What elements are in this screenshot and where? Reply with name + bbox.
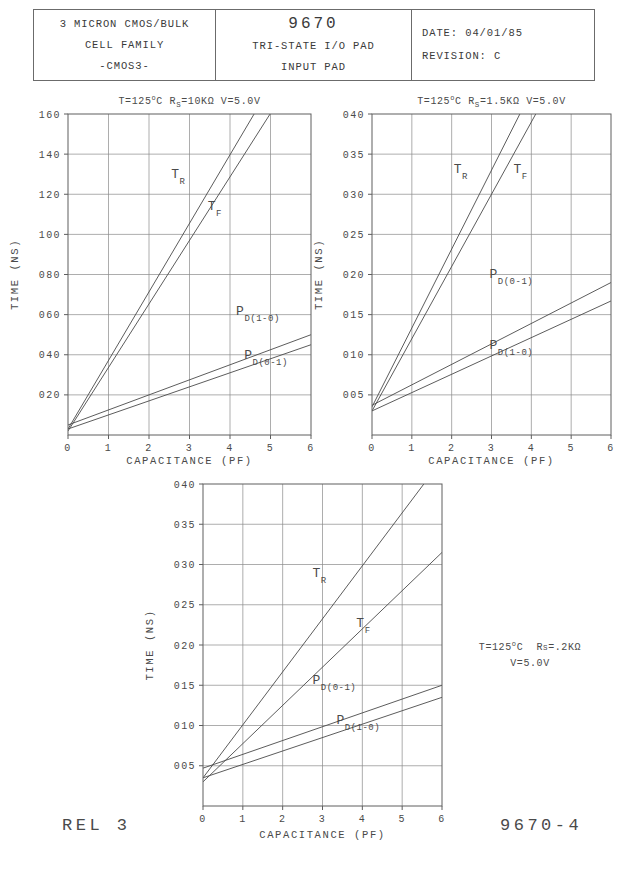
y-tick-label: 120 (39, 190, 61, 201)
x-tick-label: 4 (528, 443, 535, 454)
family-name-line: CELL FAMILY (85, 35, 164, 56)
chart-conditions: T=125oC RS=10KΩ V=5.0V (119, 94, 261, 109)
y-tick-label: 015 (174, 681, 196, 692)
x-tick-label: 3 (319, 814, 326, 825)
y-tick-label: 025 (343, 230, 365, 241)
chart-rs-10k: T=125oC RS=10KΩ V=5.0V020040060080100120… (0, 96, 330, 466)
curve-label-t-f: TF (208, 199, 222, 219)
y-tick-label: 035 (343, 150, 365, 161)
y-tick-label: 030 (174, 560, 196, 571)
part-description-line1: TRI-STATE I/O PAD (252, 36, 374, 57)
y-tick-label: 100 (39, 230, 61, 241)
x-tick-label: 1 (105, 443, 112, 454)
revision-row: REVISION: C (422, 45, 501, 68)
part-description-line2: INPUT PAD (281, 57, 346, 78)
date-label: DATE: (422, 27, 458, 39)
x-tick-label: 0 (64, 443, 71, 454)
x-tick-label: 0 (368, 443, 375, 454)
family-process-line: 3 MICRON CMOS/BULK (60, 14, 190, 35)
y-tick-label: 040 (343, 110, 365, 121)
x-tick-label: 3 (488, 443, 495, 454)
x-tick-label: 1 (239, 814, 246, 825)
curve-label-t-r: TR (454, 162, 468, 182)
y-tick-label: 140 (39, 150, 61, 161)
y-tick-label: 020 (174, 641, 196, 652)
y-tick-label: 040 (174, 480, 196, 491)
footer-page-id: 9670-4 (500, 816, 582, 835)
x-tick-label: 6 (438, 814, 445, 825)
curve-label-p-d0-1: PD(0-1) (244, 348, 288, 368)
y-tick-label: 005 (174, 761, 196, 772)
side-note-line2: V=5.0V (510, 658, 550, 669)
curve-label-p-d1-0: PD(1-0) (490, 338, 534, 358)
y-tick-label: 160 (39, 110, 61, 121)
curve-label-p-d1-0: PD(1-0) (336, 713, 380, 733)
date-row: DATE: 04/01/85 (422, 22, 523, 45)
x-tick-label: 1 (408, 443, 415, 454)
curve-label-t-r: TR (313, 566, 327, 586)
y-tick-label: 080 (39, 270, 61, 281)
y-tick-label: 015 (343, 310, 365, 321)
x-tick-label: 5 (398, 814, 405, 825)
title-block-family-cell: 3 MICRON CMOS/BULK CELL FAMILY -CMOS3- (34, 10, 216, 80)
curve-label-p-d1-0: PD(1-0) (236, 304, 280, 324)
curve-label-t-r: TR (171, 167, 185, 187)
y-axis-title: TIME (NS) (9, 239, 21, 310)
side-note-line1: T=125oC RS=.2KΩ (479, 642, 581, 653)
y-tick-label: 005 (343, 390, 365, 401)
y-tick-label: 010 (343, 350, 365, 361)
x-tick-label: 2 (448, 443, 455, 454)
curve-label-t-f: TF (513, 162, 527, 182)
y-tick-label: 025 (174, 600, 196, 611)
y-tick-label: 060 (39, 310, 61, 321)
y-tick-label: 040 (39, 350, 61, 361)
x-tick-label: 5 (567, 443, 574, 454)
x-tick-label: 2 (145, 443, 152, 454)
title-block-part-cell: 9670 TRI-STATE I/O PAD INPUT PAD (216, 10, 412, 80)
footer-release: REL 3 (62, 816, 131, 835)
chart-rs-0p2k: 0050100150200250300350400123456CAPACITAN… (135, 466, 455, 846)
y-tick-label: 020 (343, 270, 365, 281)
x-axis-title: CAPACITANCE (PF) (259, 829, 385, 841)
chart-rs-0p2k-conditions: T=125oC RS=.2KΩ V=5.0V (455, 637, 605, 671)
x-tick-label: 4 (226, 443, 233, 454)
chart-rs-1p5k: T=125oC RS=1.5KΩ V=5.0V00501001502002503… (304, 96, 624, 466)
y-tick-label: 010 (174, 721, 196, 732)
x-tick-label: 6 (607, 443, 614, 454)
chart-conditions: T=125oC RS=1.5KΩ V=5.0V (417, 94, 566, 109)
curve-label-p-d0-1: PD(0-1) (490, 267, 534, 287)
y-axis-title: TIME (NS) (144, 609, 156, 680)
family-variant-line: -CMOS3- (99, 56, 149, 77)
y-axis-title: TIME (NS) (313, 239, 325, 310)
x-tick-label: 0 (199, 814, 206, 825)
x-tick-label: 4 (359, 814, 366, 825)
revision-label: REVISION: (422, 50, 487, 62)
y-tick-label: 020 (39, 390, 61, 401)
x-tick-label: 3 (186, 443, 193, 454)
revision-value: C (494, 50, 501, 62)
curve-label-p-d0-1: PD(0-1) (313, 673, 357, 693)
y-tick-label: 035 (174, 520, 196, 531)
x-tick-label: 5 (267, 443, 274, 454)
part-number: 9670 (288, 13, 338, 36)
curve-label-t-f: TF (356, 616, 370, 636)
title-block-meta-cell: DATE: 04/01/85 REVISION: C (412, 10, 594, 80)
title-block: 3 MICRON CMOS/BULK CELL FAMILY -CMOS3- 9… (33, 9, 595, 81)
x-tick-label: 2 (279, 814, 286, 825)
y-tick-label: 030 (343, 190, 365, 201)
date-value: 04/01/85 (465, 27, 523, 39)
